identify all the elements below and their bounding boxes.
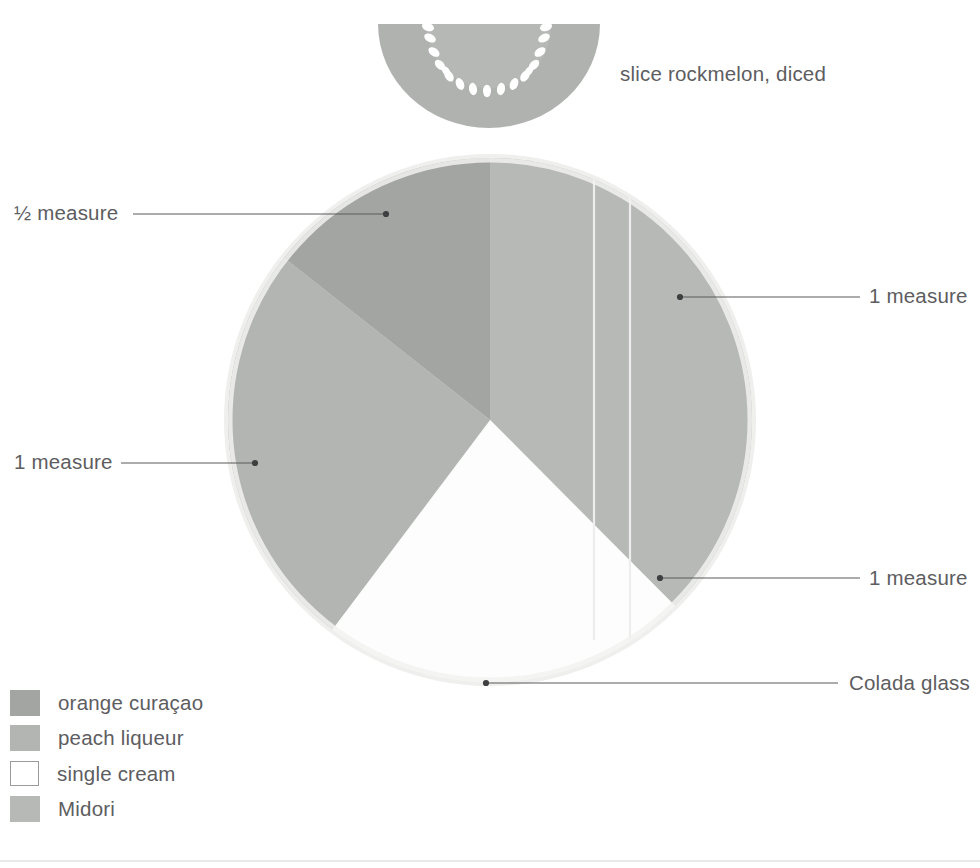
callout-label-measure-cream: 1 measure	[869, 568, 968, 589]
diagram-stage: slice rockmelon, diced ½ measure 1 measu…	[0, 0, 980, 868]
garnish-label: slice rockmelon, diced	[620, 64, 826, 85]
legend-item-single-cream[interactable]: single cream	[10, 756, 310, 792]
legend: orange curaçao peach liqueur single crea…	[10, 685, 310, 827]
callout-label-measure-midori: 1 measure	[869, 286, 968, 307]
legend-swatch-peach-liqueur	[10, 725, 40, 751]
callout-label-half-measure: ½ measure	[14, 203, 118, 224]
legend-item-peach-liqueur[interactable]: peach liqueur	[10, 721, 310, 757]
legend-label-orange-curacao: orange curaçao	[58, 693, 203, 714]
callout-label-glass: Colada glass	[849, 673, 970, 694]
legend-item-orange-curacao[interactable]: orange curaçao	[10, 685, 310, 721]
rockmelon-slice-graphic	[378, 0, 600, 128]
footer-divider	[0, 860, 980, 862]
legend-label-single-cream: single cream	[57, 764, 176, 785]
legend-item-midori[interactable]: Midori	[10, 792, 310, 828]
legend-swatch-orange-curacao	[10, 690, 40, 716]
callout-label-measure-peach: 1 measure	[14, 452, 113, 473]
legend-label-midori: Midori	[58, 799, 115, 820]
pie-wedges	[226, 150, 815, 705]
legend-label-peach-liqueur: peach liqueur	[58, 728, 184, 749]
legend-swatch-single-cream	[10, 761, 39, 786]
legend-swatch-midori	[10, 796, 40, 822]
